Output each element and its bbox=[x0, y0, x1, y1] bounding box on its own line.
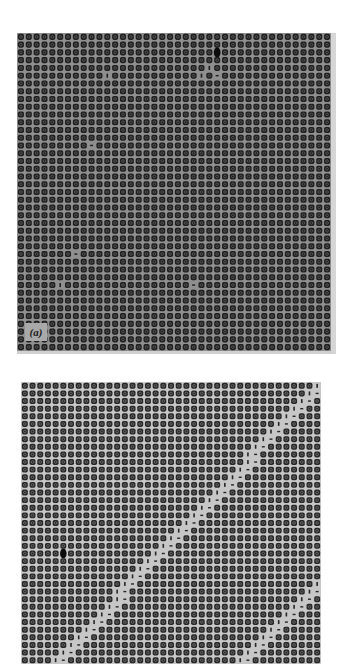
lattice-site bbox=[268, 444, 274, 450]
lattice-site bbox=[276, 444, 282, 450]
lattice-site bbox=[299, 467, 305, 473]
vacancy-defect bbox=[201, 506, 203, 510]
lattice-site bbox=[99, 596, 105, 602]
lattice-site bbox=[246, 42, 252, 48]
lattice-site bbox=[120, 119, 126, 125]
lattice-site bbox=[96, 274, 102, 280]
lattice-site bbox=[159, 57, 165, 63]
lattice-site bbox=[277, 42, 283, 48]
lattice-site bbox=[246, 57, 252, 63]
lattice-site bbox=[34, 173, 40, 179]
lattice-site bbox=[276, 459, 282, 465]
lattice-site bbox=[68, 497, 74, 503]
lattice-site bbox=[238, 42, 244, 48]
lattice-site bbox=[222, 344, 228, 350]
lattice-site bbox=[245, 398, 251, 404]
lattice-site bbox=[206, 42, 212, 48]
lattice-site bbox=[283, 383, 289, 389]
lattice-site bbox=[18, 336, 24, 342]
lattice-site bbox=[34, 34, 40, 40]
lattice-site bbox=[260, 573, 266, 579]
lattice-site bbox=[230, 329, 236, 335]
lattice-site bbox=[76, 406, 82, 412]
lattice-site bbox=[22, 490, 28, 496]
lattice-site bbox=[183, 451, 189, 457]
lattice-site bbox=[91, 390, 97, 396]
lattice-site bbox=[308, 251, 314, 257]
lattice-site bbox=[37, 497, 43, 503]
lattice-site bbox=[206, 535, 212, 541]
lattice-site bbox=[160, 619, 166, 625]
lattice-site bbox=[245, 482, 251, 488]
lattice-site bbox=[22, 619, 28, 625]
lattice-site bbox=[37, 398, 43, 404]
lattice-site bbox=[206, 421, 212, 427]
lattice-site bbox=[136, 104, 142, 110]
lattice-site bbox=[73, 259, 79, 265]
lattice-site bbox=[106, 627, 112, 633]
lattice-site bbox=[238, 166, 244, 172]
lattice-site bbox=[91, 604, 97, 610]
lattice-site bbox=[68, 627, 74, 633]
lattice-site bbox=[34, 80, 40, 86]
lattice-site bbox=[245, 474, 251, 480]
lattice-site bbox=[277, 313, 283, 319]
lattice-site bbox=[104, 142, 110, 148]
vacancy-defect bbox=[254, 461, 257, 462]
lattice-site bbox=[206, 596, 212, 602]
lattice-site bbox=[277, 57, 283, 63]
lattice-site bbox=[191, 482, 197, 488]
lattice-site bbox=[26, 251, 32, 257]
lattice-site bbox=[145, 573, 151, 579]
vacancy-defect bbox=[300, 408, 303, 409]
lattice-site bbox=[268, 505, 274, 511]
lattice-site bbox=[120, 313, 126, 319]
lattice-site bbox=[153, 642, 159, 648]
lattice-site bbox=[301, 173, 307, 179]
lattice-site bbox=[41, 228, 47, 234]
lattice-site bbox=[122, 573, 128, 579]
lattice-site bbox=[37, 596, 43, 602]
lattice-site bbox=[230, 282, 236, 288]
lattice-site bbox=[191, 259, 197, 265]
lattice-site bbox=[45, 589, 51, 595]
lattice-site bbox=[65, 189, 71, 195]
lattice-site bbox=[73, 96, 79, 102]
lattice-site bbox=[175, 197, 181, 203]
vacancy-defect bbox=[100, 621, 103, 622]
lattice-site bbox=[83, 482, 89, 488]
lattice-site bbox=[183, 111, 189, 117]
lattice-site bbox=[73, 142, 79, 148]
lattice-site bbox=[114, 444, 120, 450]
lattice-site bbox=[175, 42, 181, 48]
lattice-site bbox=[230, 528, 236, 534]
lattice-site bbox=[324, 73, 330, 79]
lattice-site bbox=[299, 611, 305, 617]
lattice-site bbox=[261, 142, 267, 148]
lattice-site bbox=[153, 535, 159, 541]
lattice-site bbox=[191, 551, 197, 557]
lattice-site bbox=[68, 490, 74, 496]
lattice-site bbox=[191, 228, 197, 234]
vacancy-defect bbox=[263, 437, 265, 441]
lattice-site bbox=[293, 274, 299, 280]
lattice-site bbox=[176, 436, 182, 442]
lattice-site bbox=[316, 259, 322, 265]
lattice-site bbox=[299, 482, 305, 488]
lattice-site bbox=[206, 189, 212, 195]
lattice-site bbox=[167, 228, 173, 234]
lattice-site bbox=[246, 189, 252, 195]
lattice-site bbox=[151, 313, 157, 319]
lattice-site bbox=[22, 535, 28, 541]
lattice-site bbox=[151, 49, 157, 55]
lattice-site bbox=[26, 305, 32, 311]
lattice-site bbox=[120, 57, 126, 63]
lattice-site bbox=[168, 474, 174, 480]
lattice-site bbox=[22, 528, 28, 534]
lattice-site bbox=[26, 181, 32, 187]
lattice-site bbox=[114, 535, 120, 541]
lattice-site bbox=[60, 398, 66, 404]
lattice-site bbox=[269, 290, 275, 296]
lattice-site bbox=[314, 459, 320, 465]
lattice-site bbox=[37, 444, 43, 450]
